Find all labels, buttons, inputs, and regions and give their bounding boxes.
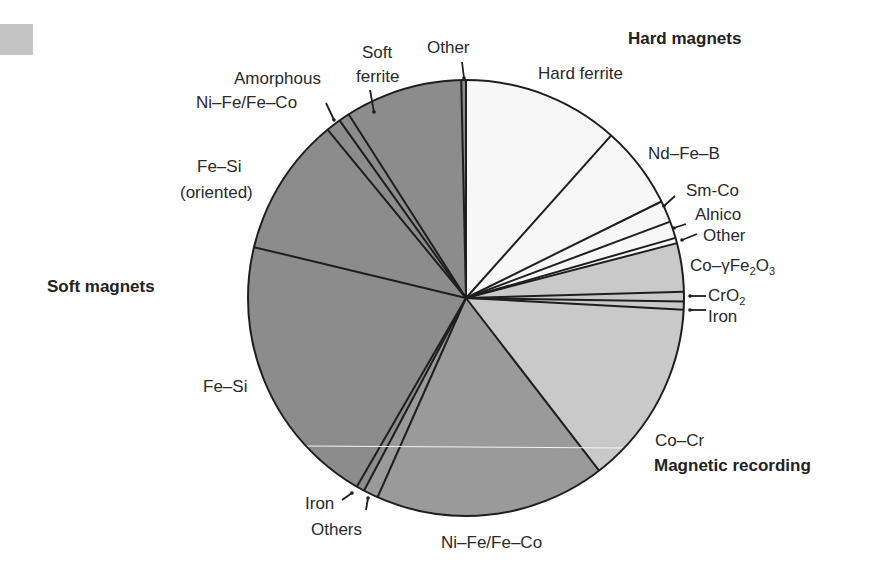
label-fe-si-oriented-line1: Fe–Si (197, 157, 241, 176)
label-nd-fe-b: Nd–Fe–B (648, 144, 720, 163)
arrowhead-icon (372, 110, 376, 114)
group-label-hard-magnets: Hard magnets (628, 29, 741, 49)
group-label-magnetic-recording: Magnetic recording (654, 456, 811, 476)
label-cro2-sub: 2 (739, 295, 745, 307)
label-sm-co: Sm-Co (686, 181, 739, 200)
label-other-hard: Other (703, 226, 746, 245)
label-soft-ferrite-line2: ferrite (356, 67, 399, 86)
arrowhead-icon (662, 204, 666, 208)
label-hard-ferrite: Hard ferrite (538, 64, 623, 83)
label-cro2-text: CrO (708, 286, 739, 305)
label-co-gamma-o: O (756, 256, 769, 275)
label-amorphous: Amorphous (234, 69, 321, 88)
arrowhead-icon (672, 226, 676, 230)
leader-arrow-icon (664, 196, 675, 206)
leader-arrow-icon (462, 62, 464, 78)
label-fe-si: Fe–Si (203, 377, 247, 396)
arrowhead-icon (332, 118, 336, 122)
label-co-gamma-text: Co–γFe (690, 256, 750, 275)
label-iron-recording: Iron (708, 307, 737, 326)
leader-arrow-icon (342, 493, 352, 500)
label-ni-fe-fe-co-top: Ni–Fe/Fe–Co (196, 93, 297, 112)
arrowhead-icon (688, 294, 692, 298)
leader-arrow-icon (682, 234, 697, 240)
leader-arrow-icon (674, 224, 686, 228)
label-co-gamma-sub2: 3 (769, 265, 775, 277)
arrowhead-icon (350, 491, 354, 495)
arrowhead-icon (366, 496, 370, 500)
label-soft-ferrite-line1: Soft (362, 43, 392, 62)
group-label-soft-magnets: Soft magnets (47, 277, 155, 297)
label-co-cr: Co–Cr (655, 431, 704, 450)
label-alnico: Alnico (695, 205, 741, 224)
leader-arrow-icon (366, 498, 368, 510)
label-co-gamma-fe2o3: Co–γFe2O3 (690, 256, 775, 281)
label-others-soft: Others (311, 520, 362, 539)
arrowhead-icon (462, 76, 466, 80)
label-iron-soft: Iron (305, 494, 334, 513)
label-ni-fe-fe-co-bottom: Ni–Fe/Fe–Co (441, 533, 542, 552)
label-fe-si-oriented-line2: (oriented) (180, 183, 253, 202)
label-other-soft-top: Other (427, 38, 470, 57)
leader-arrow-icon (326, 103, 334, 120)
arrowhead-icon (688, 308, 692, 312)
arrowhead-icon (680, 238, 684, 242)
